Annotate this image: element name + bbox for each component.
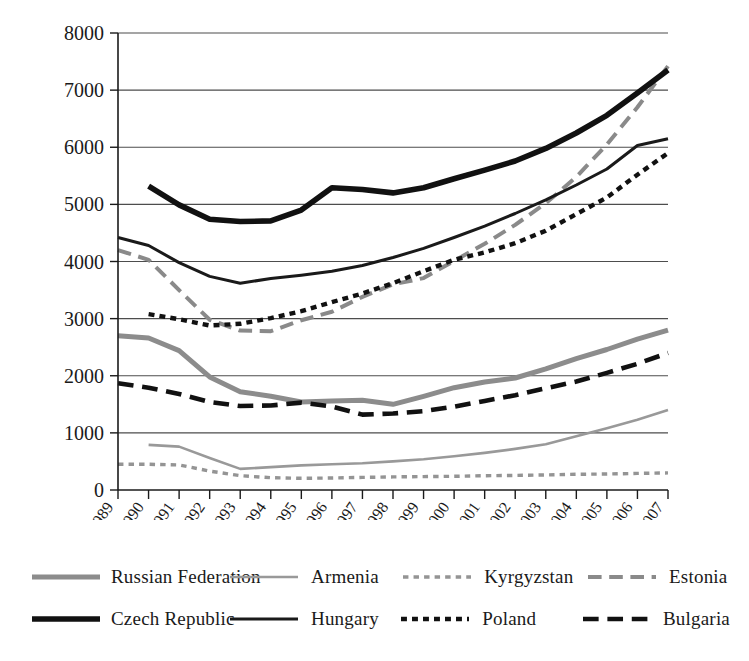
legend-label-bulgaria: Bulgaria [663, 608, 730, 630]
legend-swatch-armenia [226, 571, 302, 583]
legend-row: Russian Federation Armenia Kyrgyzstan Es… [30, 556, 730, 598]
legend-swatch-kyrgyzstan [399, 571, 475, 583]
x-tick-label: 2003 [512, 499, 544, 520]
legend-swatch-estonia [584, 571, 660, 583]
x-tick-label: 1990 [115, 499, 147, 520]
legend-swatch-russian-federation [30, 571, 102, 583]
x-tick-label: 2007 [634, 499, 666, 520]
y-tick-label: 2000 [64, 365, 104, 387]
series-line-russian-federation [118, 330, 668, 404]
legend-item-czech-republic[interactable]: Czech Republic [30, 608, 226, 630]
x-tick-label: 2005 [573, 499, 605, 520]
x-tick-label: 1994 [237, 499, 269, 520]
legend-label-armenia: Armenia [311, 566, 379, 588]
chart-legend: Russian Federation Armenia Kyrgyzstan Es… [30, 556, 730, 648]
x-tick-label: 2001 [451, 499, 483, 520]
series-line-armenia [149, 410, 668, 469]
series-line-czech-republic [149, 70, 668, 221]
y-tick-label: 0 [94, 479, 104, 501]
plot-area: 010002000300040005000600070008000 198919… [0, 0, 749, 520]
legend-swatch-poland [397, 613, 473, 625]
y-tick-label: 5000 [64, 193, 104, 215]
x-axis-labels: 1989199019911992199319941995199619971998… [84, 499, 666, 520]
y-axis-ticks: 010002000300040005000600070008000 [64, 22, 118, 501]
x-tick-label: 1993 [206, 499, 238, 520]
y-tick-label: 1000 [64, 422, 104, 444]
x-tick-label: 2002 [481, 499, 513, 520]
legend-item-kyrgyzstan[interactable]: Kyrgyzstan [399, 566, 584, 588]
legend-swatch-hungary [226, 613, 302, 625]
x-tick-label: 2004 [543, 499, 575, 520]
x-tick-label: 1996 [298, 499, 330, 520]
y-tick-label: 8000 [64, 22, 104, 44]
y-tick-label: 7000 [64, 79, 104, 101]
legend-item-hungary[interactable]: Hungary [226, 608, 397, 630]
legend-swatch-czech-republic [30, 613, 102, 625]
legend-label-hungary: Hungary [311, 608, 379, 630]
x-tick-label: 2006 [604, 499, 636, 520]
x-tick-label: 1998 [359, 499, 391, 520]
x-tick-label: 1997 [329, 499, 361, 520]
x-tick-label: 1995 [268, 499, 300, 520]
plot-svg: 010002000300040005000600070008000 198919… [0, 0, 749, 520]
legend-row: Czech Republic Hungary Poland Bulgaria [30, 598, 730, 640]
x-tick-label: 1992 [176, 499, 208, 520]
legend-item-armenia[interactable]: Armenia [226, 566, 399, 588]
legend-swatch-bulgaria [580, 613, 654, 625]
series-line-kyrgyzstan [118, 464, 668, 478]
x-tick-label: 2000 [420, 499, 452, 520]
x-tick-label: 1989 [84, 499, 116, 520]
legend-label-kyrgyzstan: Kyrgyzstan [484, 566, 573, 588]
legend-item-bulgaria[interactable]: Bulgaria [580, 608, 730, 630]
x-tick-label: 1991 [145, 499, 177, 520]
legend-label-czech-republic: Czech Republic [111, 608, 235, 630]
y-tick-label: 6000 [64, 136, 104, 158]
legend-item-russian-federation[interactable]: Russian Federation [30, 566, 226, 588]
line-chart: 010002000300040005000600070008000 198919… [0, 0, 749, 661]
series-layer [118, 66, 668, 478]
legend-label-estonia: Estonia [669, 566, 727, 588]
series-line-estonia [118, 66, 668, 331]
gridlines [118, 33, 668, 433]
y-tick-label: 4000 [64, 251, 104, 273]
x-axis-ticks [118, 490, 668, 499]
x-tick-label: 1999 [390, 499, 422, 520]
y-tick-label: 3000 [64, 308, 104, 330]
legend-label-poland: Poland [482, 608, 536, 630]
legend-item-poland[interactable]: Poland [397, 608, 580, 630]
legend-item-estonia[interactable]: Estonia [584, 566, 730, 588]
